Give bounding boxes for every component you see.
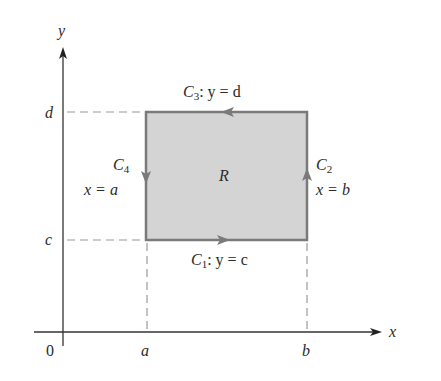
tick-label-d: d xyxy=(45,104,54,121)
x-axis-label: x xyxy=(388,323,396,340)
curve-label-c4: C4 xyxy=(113,156,130,175)
origin-label: 0 xyxy=(46,342,54,359)
curve-label-c1: C1: y = c xyxy=(191,251,248,270)
tick-label-a: a xyxy=(141,342,149,359)
green-theorem-rectangle-diagram: y x 0 a b c d R C3: y = d C1: y = c C4 x… xyxy=(0,0,441,381)
curve-label-c3: C3: y = d xyxy=(183,83,241,102)
curve-eq-c2: x = b xyxy=(315,181,350,198)
curve-eq-c4: x = a xyxy=(83,181,118,198)
region-label: R xyxy=(218,167,229,184)
tick-label-b: b xyxy=(302,342,310,359)
curve-label-c2: C2 xyxy=(316,156,332,175)
tick-label-c: c xyxy=(45,231,52,248)
y-axis-label: y xyxy=(56,22,66,40)
